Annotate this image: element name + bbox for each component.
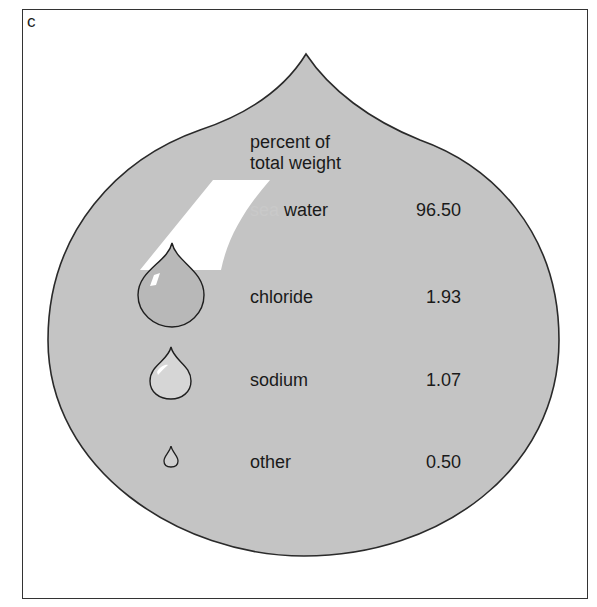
row-label: sea water <box>250 200 328 221</box>
panel-letter: c <box>27 12 36 32</box>
row-value: 1.93 <box>426 287 461 308</box>
heading-line-2: total weight <box>250 153 341 174</box>
column-heading: percent of total weight <box>250 132 341 174</box>
row-label: chloride <box>250 287 313 308</box>
heading-line-1: percent of <box>250 132 341 153</box>
row-value: 0.50 <box>426 452 461 473</box>
row-label: other <box>250 452 291 473</box>
row-value: 1.07 <box>426 370 461 391</box>
row-label-text: water <box>284 200 328 220</box>
row-label: sodium <box>250 370 308 391</box>
row-value: 96.50 <box>416 200 461 221</box>
row-label-prefix: sea <box>250 200 279 220</box>
